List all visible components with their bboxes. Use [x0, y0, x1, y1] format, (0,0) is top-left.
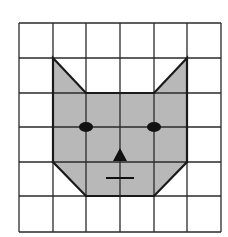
left-eye — [79, 122, 93, 132]
cat-grid-diagram — [0, 0, 228, 237]
right-eye — [147, 122, 161, 132]
